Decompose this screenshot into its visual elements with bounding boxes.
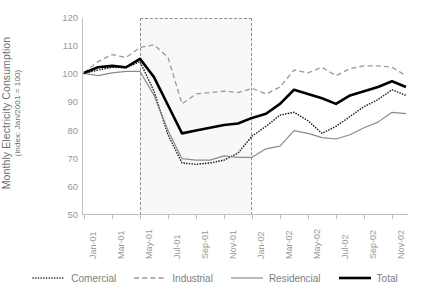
thick-solid-line-icon: [338, 274, 372, 282]
dashed-line-icon: [133, 274, 167, 282]
x-axis-label-May-02: May-02: [312, 229, 322, 259]
y-axis-tick-labels: 5060708090100110120: [52, 0, 78, 225]
x-axis-label-Mar-01: Mar-01: [116, 230, 126, 259]
y-axis-label-80: 80: [67, 126, 78, 136]
x-axis-label-Sep-02: Sep-02: [368, 230, 378, 259]
x-axis-label-Jul-02: Jul-02: [340, 234, 350, 259]
series-line-residencial: [84, 71, 406, 160]
series-line-industrial: [84, 45, 406, 104]
y-axis-label-60: 60: [67, 182, 78, 192]
legend-label: Residencial: [269, 273, 321, 284]
legend-item-comercial[interactable]: Comercial: [32, 273, 116, 284]
legend-label: Comercial: [71, 273, 116, 284]
x-axis-label-Nov-02: Nov-02: [396, 230, 406, 259]
series-lines: [82, 18, 408, 215]
x-axis-label-May-01: May-01: [144, 229, 154, 259]
y-axis-title: Monthly Electricity Consumption (index: …: [0, 0, 46, 240]
y-axis-title-sub: (index: Jan/2001 = 100): [13, 0, 22, 228]
thin-solid-line-icon: [230, 274, 264, 282]
x-axis-label-Jan-02: Jan-02: [256, 231, 266, 259]
series-line-comercial: [84, 62, 406, 165]
legend-label: Total: [377, 273, 398, 284]
y-axis-label-70: 70: [67, 154, 78, 164]
electricity-consumption-chart: Monthly Electricity Consumption (index: …: [0, 0, 430, 302]
x-axis-label-Mar-02: Mar-02: [284, 230, 294, 259]
legend-label: Industrial: [172, 273, 213, 284]
x-axis-label-Nov-01: Nov-01: [228, 230, 238, 259]
x-axis-label-Jul-01: Jul-01: [172, 234, 182, 259]
legend-item-industrial[interactable]: Industrial: [133, 273, 213, 284]
y-axis-title-main: Monthly Electricity Consumption: [0, 0, 12, 228]
y-axis-label-90: 90: [67, 97, 78, 107]
legend-item-total[interactable]: Total: [338, 273, 398, 284]
series-line-total: [84, 59, 406, 134]
x-axis-label-Sep-01: Sep-01: [200, 230, 210, 259]
legend-item-residencial[interactable]: Residencial: [230, 273, 321, 284]
plot-area: [82, 18, 408, 215]
x-axis-label-Jan-01: Jan-01: [88, 231, 98, 259]
chart-legend: ComercialIndustrialResidencialTotal: [0, 266, 430, 290]
dotted-line-icon: [32, 274, 66, 282]
y-axis-label-120: 120: [62, 13, 78, 23]
y-axis-label-110: 110: [63, 41, 78, 51]
y-axis-label-100: 100: [62, 69, 78, 79]
